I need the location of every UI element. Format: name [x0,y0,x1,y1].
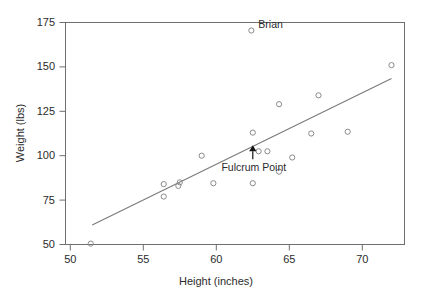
y-tick-label-75: 75 [43,194,55,206]
y-tick-label-50: 50 [43,238,55,250]
scatter-point [249,28,254,33]
scatter-point [211,181,216,186]
plot-frame [66,23,405,245]
annotation-brian: Brian [258,18,283,30]
y-axis-title: Weight (lbs) [14,104,26,162]
scatter-point [250,181,255,186]
scatter-point [265,149,270,154]
y-axis-tick-labels: 175 150 125 100 75 50 [37,16,55,250]
y-tick-label-100: 100 [37,149,55,161]
x-tick-label-50: 50 [64,253,76,265]
scatter-point [389,63,394,68]
scatter-points-layer [88,28,394,246]
y-tick-label-175: 175 [37,16,55,28]
scatter-plot-figure: 175 150 125 100 75 50 50 55 60 65 70 Hei… [0,0,423,298]
plot-border [66,23,405,245]
scatter-point [88,241,93,246]
y-axis-ticks [60,23,66,245]
x-tick-label-60: 60 [210,253,222,265]
y-tick-label-125: 125 [37,105,55,117]
scatter-point [276,102,281,107]
scatter-point [345,129,350,134]
plot-canvas: 175 150 125 100 75 50 50 55 60 65 70 Hei… [0,0,423,298]
scatter-point [161,194,166,199]
x-tick-label-55: 55 [137,253,149,265]
scatter-point [290,155,295,160]
scatter-point [309,131,314,136]
scatter-point [316,93,321,98]
fulcrum-triangle-icon [249,145,256,151]
scatter-point [256,149,261,154]
x-axis-title: Height (inches) [179,275,253,287]
x-tick-label-65: 65 [283,253,295,265]
y-tick-label-150: 150 [37,60,55,72]
scatter-point [250,130,255,135]
x-tick-label-70: 70 [356,253,368,265]
scatter-point [199,153,204,158]
scatter-point [161,182,166,187]
annotation-fulcrum-point: Fulcrum Point [221,161,286,173]
trend-line [92,78,391,225]
x-axis-tick-labels: 50 55 60 65 70 [64,253,368,265]
x-axis-ticks [70,245,362,251]
